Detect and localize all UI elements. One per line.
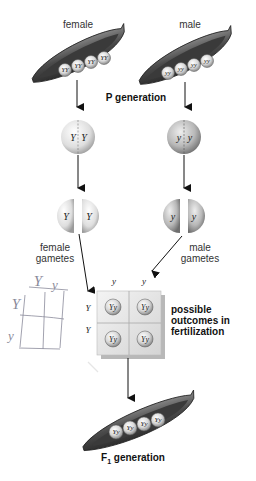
handwritten-punnett-sketch (19, 287, 68, 349)
pea-genotype-label: Yy (141, 420, 149, 428)
male-gametes-label: male gametes (175, 242, 225, 264)
male-gametes-graphic (163, 199, 205, 233)
p-generation-label: P generation (96, 92, 176, 103)
pea: yy (175, 63, 188, 76)
pea: YY (59, 64, 72, 77)
pea: YY (85, 56, 98, 69)
pea-genotype-label: Yy (155, 416, 163, 424)
pea-genotype-label: Yy (127, 424, 135, 432)
female-pea-pod (25, 24, 134, 86)
pea-genotype-label: Yy (141, 303, 149, 312)
pea: Yy (151, 413, 165, 427)
pea: yy (162, 67, 175, 80)
pea: yy (188, 59, 201, 72)
pea: Yy (123, 421, 137, 435)
sketch-row-header-2: y (6, 328, 14, 343)
f1-generation-label: F1 generation (88, 452, 178, 467)
pea: Yy (137, 417, 151, 431)
male-label: male (170, 19, 210, 30)
male-gamete-allele-2: y (191, 211, 197, 222)
pea-genotype-label: yy (203, 57, 210, 64)
male-gametes-label-line1: male (175, 242, 225, 253)
female-label: female (58, 19, 98, 30)
female-gametes-label-line2: gametes (30, 253, 80, 264)
stray-mark (88, 362, 98, 372)
pea-genotype-label: Yy (109, 335, 117, 344)
male-cell-allele-2: y (187, 132, 193, 143)
pea: YY (98, 52, 111, 65)
punnett-row-header-2: Y (85, 325, 91, 335)
f1-suffix: generation (111, 452, 165, 463)
male-pea-pod (132, 26, 241, 88)
possible-outcomes-label: possible outcomes in fertilization (171, 304, 251, 337)
punnett-col-header-1: y (111, 276, 116, 286)
diagram-canvas: YYYYYYYY yyyyyyyy YyYyYyYy (0, 0, 256, 481)
pea-genotype-label: yy (177, 65, 184, 72)
male-cell-allele-1: y (176, 132, 182, 143)
outcomes-line2: outcomes in (171, 315, 251, 326)
punnett-cell-pea: Yy (137, 331, 153, 347)
female-parent-cell (61, 120, 95, 154)
female-gametes-label-line1: female (30, 242, 80, 253)
punnett-col-header-2: y (141, 276, 146, 286)
female-gametes-label: female gametes (30, 242, 80, 264)
outcomes-line3: fertilization (171, 326, 251, 337)
pea-genotype-label: Yy (141, 335, 149, 344)
punnett-row-header-1: Y (85, 303, 91, 313)
punnett-cell-pea: Yy (105, 331, 121, 347)
pea-genotype-label: yy (164, 69, 171, 76)
sketch-col-header-1: Y (34, 273, 44, 289)
punnett-cell-pea: Yy (137, 299, 153, 315)
male-gamete-allele-1: y (170, 211, 176, 222)
male-gametes-label-line2: gametes (175, 253, 225, 264)
pea: Yy (109, 425, 123, 439)
punnett-cell-pea: Yy (105, 299, 121, 315)
pea-genotype-label: yy (190, 61, 197, 68)
arrow-female-gametes-to-punnett (79, 234, 88, 291)
outcomes-line1: possible (171, 304, 251, 315)
sketch-col-header-2: y (50, 277, 58, 292)
pea: yy (201, 55, 214, 68)
pea: YY (72, 60, 85, 73)
pea-genotype-label: Yy (109, 303, 117, 312)
male-parent-cell (167, 120, 201, 154)
sketch-row-header-1: Y (12, 296, 22, 312)
pea-genotype-label: Yy (113, 428, 121, 436)
